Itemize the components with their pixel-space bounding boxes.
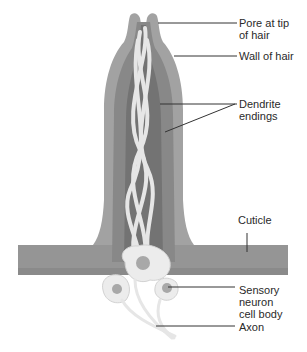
label-wall: Wall of hair [239,50,294,62]
label-sensory: Sensory neuron cell body [239,284,282,320]
label-axon: Axon [239,321,264,333]
label-cuticle: Cuticle [238,214,272,226]
sensory-hair-diagram: Pore at tip of hair Wall of hair Dendrit… [0,0,307,352]
label-pore: Pore at tip of hair [239,17,289,41]
label-dendrite: Dendrite endings [239,98,281,122]
